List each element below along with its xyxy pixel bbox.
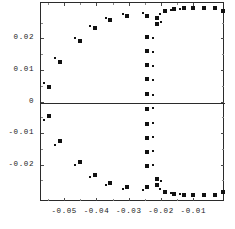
data-point xyxy=(221,190,225,194)
data-point xyxy=(78,160,82,164)
data-point xyxy=(142,12,144,14)
data-point xyxy=(145,136,149,140)
y-minor-tick xyxy=(41,86,43,87)
data-point xyxy=(142,189,144,191)
data-point xyxy=(145,150,149,154)
data-point xyxy=(152,136,154,138)
data-point xyxy=(213,6,217,10)
data-point xyxy=(152,107,154,109)
data-point xyxy=(74,37,76,39)
x-tick xyxy=(96,198,97,201)
x-tick xyxy=(64,198,65,201)
data-point xyxy=(202,6,206,10)
data-point xyxy=(47,114,51,118)
data-point xyxy=(155,183,159,187)
y-minor-tick xyxy=(41,54,43,55)
y-tick xyxy=(41,133,44,134)
data-point xyxy=(155,16,159,20)
data-point xyxy=(163,9,167,13)
x-minor-tick xyxy=(177,199,178,201)
data-point xyxy=(58,60,62,64)
data-point xyxy=(145,92,149,96)
y-tick-label: -0.02 xyxy=(0,161,34,169)
x-minor-tick xyxy=(80,199,81,201)
y-minor-tick xyxy=(41,117,43,118)
x-minor-tick-top xyxy=(113,3,114,5)
y-minor-tick-right xyxy=(222,86,224,87)
data-point xyxy=(172,192,176,196)
data-point xyxy=(152,150,154,152)
data-point xyxy=(58,139,62,143)
x-tick-top xyxy=(64,3,65,6)
x-minor-tick-top xyxy=(177,3,178,5)
data-point xyxy=(78,39,82,43)
data-point xyxy=(191,6,195,10)
y-minor-tick-right xyxy=(222,117,224,118)
data-point xyxy=(182,193,186,197)
y-tick-right xyxy=(221,70,224,71)
x-tick-top xyxy=(96,3,97,6)
data-point xyxy=(145,77,149,81)
data-point xyxy=(105,17,107,19)
y-minor-tick-right xyxy=(222,23,224,24)
x-tick-top xyxy=(129,3,130,6)
x-minor-tick-top xyxy=(80,3,81,5)
y-tick-label: 0.01 xyxy=(0,66,34,74)
data-point xyxy=(89,176,91,178)
y-tick xyxy=(41,38,44,39)
data-point xyxy=(145,164,149,168)
data-point xyxy=(170,9,172,11)
scatter-plot: -0.05-0.04-0.03-0.02-0.010.020.010-0.01-… xyxy=(0,0,235,229)
y-tick-right xyxy=(221,38,224,39)
data-point xyxy=(145,122,149,126)
y-tick-right xyxy=(221,133,224,134)
data-point xyxy=(145,35,149,39)
data-point xyxy=(155,22,159,26)
y-minor-tick-right xyxy=(222,149,224,150)
x-minor-tick xyxy=(113,199,114,201)
data-point xyxy=(152,164,154,166)
data-point xyxy=(221,9,225,13)
data-point xyxy=(191,193,195,197)
y-tick-label: -0.01 xyxy=(0,129,34,137)
data-point xyxy=(122,188,124,190)
data-point xyxy=(93,26,97,30)
data-point xyxy=(89,25,91,27)
data-point xyxy=(170,192,172,194)
data-point xyxy=(160,21,162,23)
data-point xyxy=(54,57,56,59)
data-point xyxy=(125,185,129,189)
y-tick-right xyxy=(221,165,224,166)
zero-axis-line xyxy=(41,103,225,104)
data-point xyxy=(145,107,149,111)
data-point xyxy=(202,193,206,197)
data-point xyxy=(179,193,181,195)
data-point xyxy=(125,14,129,18)
data-point xyxy=(108,18,112,22)
y-tick-right xyxy=(221,102,224,103)
data-point xyxy=(145,49,149,53)
data-point xyxy=(145,185,149,189)
data-point xyxy=(179,8,181,10)
x-tick-label: -0.05 xyxy=(51,208,77,216)
data-point xyxy=(163,190,167,194)
data-point xyxy=(159,188,161,190)
y-minor-tick xyxy=(41,180,43,181)
data-point xyxy=(122,13,124,15)
data-point xyxy=(152,37,154,39)
x-tick-label: -0.02 xyxy=(148,208,174,216)
y-tick-label: 0.02 xyxy=(0,35,34,43)
x-tick-top xyxy=(161,3,162,6)
x-tick-label: -0.04 xyxy=(84,208,110,216)
plot-frame xyxy=(40,2,224,201)
y-minor-tick-right xyxy=(222,180,224,181)
x-tick-label: -0.01 xyxy=(181,208,207,216)
data-point xyxy=(172,7,176,11)
data-point xyxy=(213,193,217,197)
x-tick xyxy=(129,198,130,201)
y-minor-tick-right xyxy=(222,54,224,55)
x-minor-tick-top xyxy=(145,3,146,5)
data-point xyxy=(93,173,97,177)
x-tick xyxy=(193,198,194,201)
data-point xyxy=(152,65,154,67)
